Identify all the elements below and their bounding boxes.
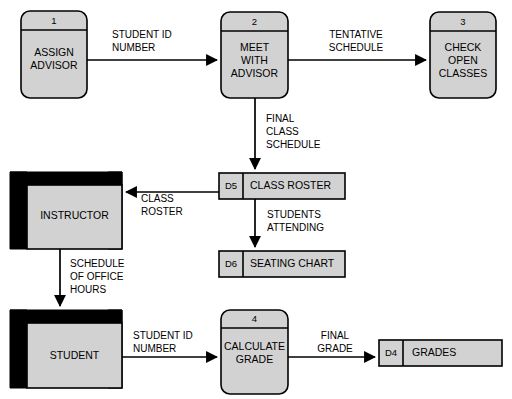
flow-4-label-line-1: CLASS <box>141 193 174 204</box>
instructor-label: INSTRUCTOR <box>40 209 109 221</box>
process-2-label-line-3: ADVISOR <box>231 67 279 79</box>
flow-5-label-line-2: ATTENDING <box>267 222 324 233</box>
instructor-shadow-top <box>10 172 122 185</box>
flow-8-label-line-1: FINAL <box>321 330 350 341</box>
process-meet-with-advisor[interactable]: 2 MEET WITH ADVISOR <box>221 12 288 98</box>
data-flow-diagram: 1 ASSIGN ADVISOR 2 MEET WITH ADVISOR 3 C… <box>0 0 512 399</box>
flow-6-label-line-1: SCHEDULE <box>70 258 125 269</box>
flow-5-label-line-1: STUDENTS <box>267 209 321 220</box>
flow-2-label-line-1: TENTATIVE <box>329 29 383 40</box>
process-3-label-line-2: OPEN <box>448 54 478 66</box>
d4-code: D4 <box>385 347 397 358</box>
flow-3-label-line-1: FINAL <box>266 113 295 124</box>
d6-code: D6 <box>225 258 237 269</box>
process-calculate-grade[interactable]: 4 CALCULATE GRADE <box>221 310 288 394</box>
flow-8-label-line-2: GRADE <box>317 343 353 354</box>
process-2-label-line-2: WITH <box>241 54 268 66</box>
student-shadow-left <box>10 310 27 388</box>
process-check-open-classes[interactable]: 3 CHECK OPEN CLASSES <box>430 12 496 98</box>
process-1-label-line-2: ADVISOR <box>30 59 78 71</box>
data-store-grades[interactable]: D4 GRADES <box>379 340 502 366</box>
student-label: STUDENT <box>50 349 100 361</box>
d4-label: GRADES <box>412 346 456 358</box>
data-store-class-roster[interactable]: D5 CLASS ROSTER <box>219 173 345 199</box>
student-shadow-top <box>10 310 122 323</box>
flow-7-label-line-1: STUDENT ID <box>133 330 193 341</box>
flow-4-label-line-2: ROSTER <box>141 206 183 217</box>
d6-label: SEATING CHART <box>250 257 335 269</box>
entity-student[interactable]: STUDENT <box>10 310 122 388</box>
process-3-label-line-1: CHECK <box>445 41 482 53</box>
d5-label: CLASS ROSTER <box>250 179 332 191</box>
process-3-label-line-3: CLASSES <box>439 67 487 79</box>
process-1-number: 1 <box>51 15 56 26</box>
flow-3-label-line-2: CLASS <box>266 126 299 137</box>
process-assign-advisor[interactable]: 1 ASSIGN ADVISOR <box>21 11 87 98</box>
flow-6-label-line-3: HOURS <box>70 284 106 295</box>
process-3-number: 3 <box>460 16 465 27</box>
flow-1-label-line-1: STUDENT ID <box>112 29 172 40</box>
flow-6-label-line-2: OF OFFICE <box>70 271 124 282</box>
d5-code: D5 <box>225 180 237 191</box>
process-2-number: 2 <box>252 16 257 27</box>
process-2-label-line-1: MEET <box>240 41 270 53</box>
flow-3-label-line-3: SCHEDULE <box>266 139 321 150</box>
flow-1-label-line-2: NUMBER <box>112 42 155 53</box>
data-store-seating-chart[interactable]: D6 SEATING CHART <box>219 251 345 277</box>
process-4-label-line-1: CALCULATE <box>224 340 285 352</box>
flow-7-label-line-2: NUMBER <box>133 343 176 354</box>
process-4-number: 4 <box>252 313 257 324</box>
process-1-label-line-1: ASSIGN <box>34 46 74 58</box>
process-4-label-line-2: GRADE <box>236 353 273 365</box>
flow-2-label-line-2: SCHEDULE <box>329 42 384 53</box>
entity-instructor[interactable]: INSTRUCTOR <box>10 172 122 249</box>
